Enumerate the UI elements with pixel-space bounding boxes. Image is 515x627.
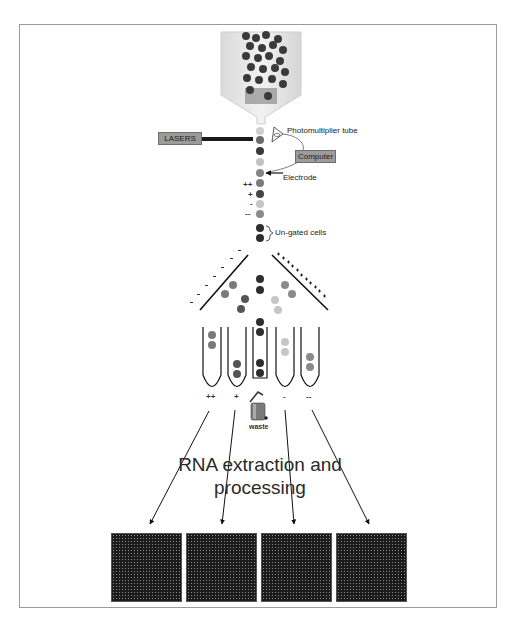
negative-plate: [200, 255, 248, 310]
tube-sign-minus: -: [283, 393, 286, 401]
microarray-1: [111, 533, 182, 602]
tube-cells: [208, 331, 314, 378]
lasers-box: LASERS: [158, 132, 202, 145]
negative-plate-signs: [190, 250, 241, 303]
stream-sign-minus: -: [250, 200, 253, 208]
waste-bin-icon: [250, 392, 268, 420]
tube-sign-plusplus: ++: [206, 393, 215, 401]
rna-extraction-label: RNA extraction and processing: [130, 453, 390, 499]
stream-sign-minusminus: --: [245, 210, 250, 218]
cell-stream: [256, 127, 264, 242]
ungated-bracket: [266, 226, 273, 241]
laser-beam: [202, 137, 253, 141]
ungated-label: Un-gated cells: [275, 229, 326, 237]
tube-sign-minusminus: --: [306, 393, 311, 401]
photomultiplier-icon: [272, 127, 283, 142]
microarray-2: [186, 533, 257, 602]
facs-diagram: [0, 0, 515, 627]
stream-sign-plusplus: ++: [243, 181, 252, 189]
microarray-4: [336, 533, 407, 602]
collection-tubes: [203, 327, 319, 387]
microarray-3: [261, 533, 332, 602]
stream-sign-plus: +: [248, 191, 253, 199]
electrode-label: Electrode: [283, 174, 317, 182]
waste-label: waste: [249, 423, 268, 430]
rna-line-2: processing: [130, 476, 390, 499]
positive-plate-signs: [277, 253, 326, 298]
photomultiplier-label: Photomultiplier tube: [287, 127, 358, 135]
sample-tube: [221, 31, 301, 124]
tube-sign-plus: +: [234, 393, 239, 401]
deflected-cells: [221, 275, 296, 336]
computer-box: Computer: [295, 150, 336, 163]
rna-line-1: RNA extraction and: [130, 453, 390, 476]
positive-plate: [272, 255, 328, 310]
